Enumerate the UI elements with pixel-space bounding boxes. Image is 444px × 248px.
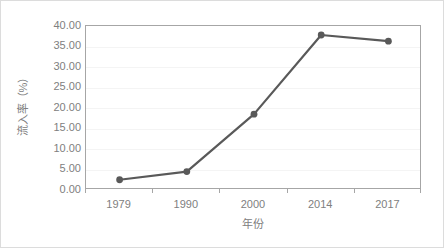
y-tick-label: 0.00 bbox=[35, 184, 81, 195]
data-point-marker bbox=[318, 32, 325, 39]
x-tick-mark bbox=[354, 189, 355, 193]
y-tick-label: 25.00 bbox=[35, 81, 81, 92]
y-tick-label: 35.00 bbox=[35, 40, 81, 51]
data-point-marker bbox=[385, 38, 392, 45]
y-tick-label: 5.00 bbox=[35, 163, 81, 174]
y-tick-label: 40.00 bbox=[35, 20, 81, 31]
y-tick-label: 15.00 bbox=[35, 122, 81, 133]
series-line bbox=[120, 35, 389, 180]
data-point-marker bbox=[183, 168, 190, 175]
x-tick-mark bbox=[85, 189, 86, 193]
data-point-marker bbox=[116, 176, 123, 183]
x-axis-tick-labels: 19791990200020142017 bbox=[85, 197, 421, 213]
x-axis-title: 年份 bbox=[85, 217, 421, 231]
x-tick-mark bbox=[152, 189, 153, 193]
line-series-svg bbox=[86, 26, 422, 190]
x-tick-label: 2014 bbox=[285, 197, 355, 211]
y-axis-title: 流入率（%） bbox=[15, 49, 31, 159]
y-axis-tick-labels: 40.0035.0030.0025.0020.0015.0010.005.000… bbox=[35, 1, 81, 248]
x-tick-mark bbox=[287, 189, 288, 193]
plot-area bbox=[85, 25, 421, 189]
y-tick-label: 20.00 bbox=[35, 102, 81, 113]
y-tick-label: 30.00 bbox=[35, 61, 81, 72]
x-tick-mark bbox=[219, 189, 220, 193]
x-tick-label: 2000 bbox=[218, 197, 288, 211]
x-tick-label: 1990 bbox=[151, 197, 221, 211]
chart-figure: 流入率（%） 40.0035.0030.0025.0020.0015.0010.… bbox=[0, 0, 444, 248]
x-tick-mark bbox=[420, 189, 421, 193]
data-point-marker bbox=[251, 111, 258, 118]
x-tick-label: 2017 bbox=[352, 197, 422, 211]
x-axis-tick-marks bbox=[85, 189, 421, 194]
y-tick-label: 10.00 bbox=[35, 143, 81, 154]
x-tick-label: 1979 bbox=[84, 197, 154, 211]
